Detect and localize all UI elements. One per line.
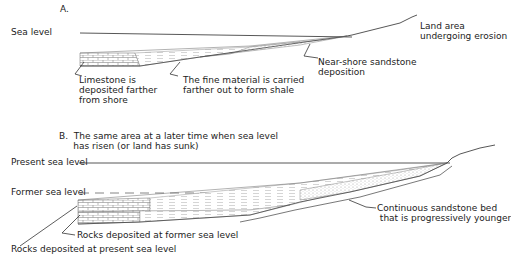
leader-fine-material	[170, 62, 180, 76]
land-surface-b	[447, 145, 495, 163]
sea-level-label: Sea level	[11, 27, 52, 37]
former-sea-level-label: Former sea level	[11, 187, 86, 197]
limestone-label: Limestone is deposited farther from shor…	[79, 75, 157, 105]
limestone-wedge	[80, 53, 140, 66]
sea-level-line	[80, 33, 352, 37]
leader-limestone	[75, 62, 84, 76]
leader-continuous-sandstone	[349, 200, 376, 208]
land-area-label: Land area undergoing erosion	[420, 21, 507, 41]
rocks-present-label: Rocks deposited at present sea level	[11, 244, 176, 254]
continuous-sandstone-label: Continuous sandstone bed that is progres…	[377, 203, 511, 223]
fine-material-label: The fine material is carried farther out…	[183, 75, 304, 95]
panel-b-title: B. The same area at a later time when se…	[59, 131, 278, 151]
present-sea-level-label: Present sea level	[11, 157, 88, 167]
panel-a-title: A.	[60, 4, 69, 14]
land-surface	[347, 15, 417, 36]
rocks-former-label: Rocks deposited at former sea level	[77, 230, 238, 240]
sandstone-label: Near-shore sandstone deposition	[318, 57, 417, 77]
leader-sandstone	[304, 44, 318, 58]
